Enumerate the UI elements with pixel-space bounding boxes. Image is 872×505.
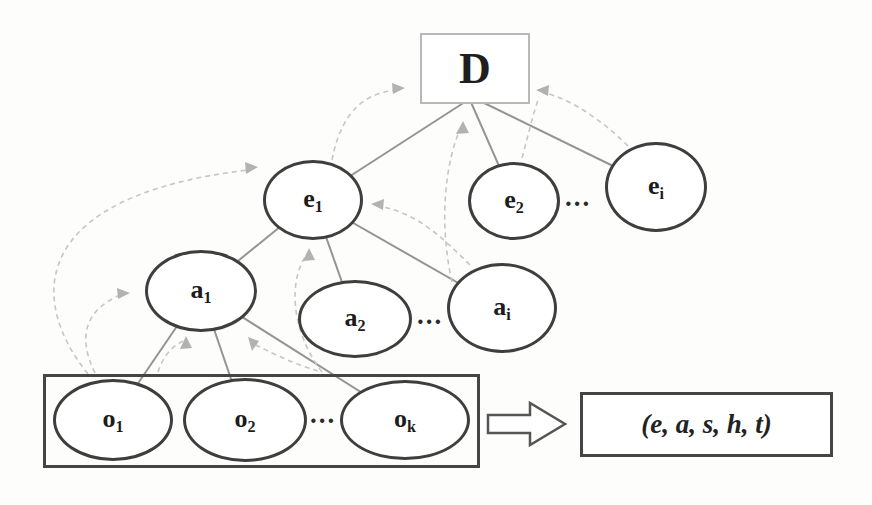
dashed-e1-d xyxy=(332,90,398,160)
e-layer-ellipsis: ... xyxy=(565,184,591,211)
block-arrow-right-icon xyxy=(488,403,565,445)
dashed-o-a1-right xyxy=(254,344,318,371)
node-ei-label: ei xyxy=(648,173,664,202)
node-ai-label: ai xyxy=(493,294,510,323)
arrowhead-into-a1-left-icon xyxy=(117,288,130,299)
arrowhead-into-d-right-icon xyxy=(536,85,549,96)
a-layer-ellipsis: ... xyxy=(417,302,443,329)
arrowhead-into-e1-bottom-icon xyxy=(303,248,315,261)
node-d: D xyxy=(420,33,530,104)
node-e2: e2 xyxy=(468,162,560,240)
dashed-ai-e1 xyxy=(378,206,470,265)
o-layer-ellipsis: ... xyxy=(310,401,336,428)
node-o1-label: o1 xyxy=(102,406,123,435)
node-a1: a1 xyxy=(145,250,257,332)
node-e1-label: e1 xyxy=(303,186,323,215)
dashed-a-d xyxy=(445,127,461,282)
node-ok: ok xyxy=(340,380,470,460)
output-tuple-box: (e, a, s, h, t) xyxy=(580,392,833,457)
arrowhead-into-d-bottom-icon xyxy=(456,121,469,134)
node-e2-label: e2 xyxy=(504,187,524,216)
arrowhead-into-a1-bottom2-icon xyxy=(248,337,259,351)
node-a1-label: a1 xyxy=(190,277,211,306)
node-ai: ai xyxy=(447,263,557,353)
node-o2-label: o2 xyxy=(234,406,255,435)
arrowhead-into-e1-left-icon xyxy=(245,162,258,174)
dashed-o-a1-left xyxy=(158,341,183,372)
node-a2-label: a2 xyxy=(344,305,365,334)
node-e1: e1 xyxy=(263,160,363,240)
node-a2: a2 xyxy=(298,280,412,358)
arrowhead-into-d-left-icon xyxy=(392,83,405,94)
node-d-label: D xyxy=(459,47,491,91)
output-tuple-label: (e, a, s, h, t) xyxy=(641,409,772,440)
hierarchy-diagram: D e1 e2 ... ei a1 a2 ... ai o1 o2 ... ok… xyxy=(0,0,872,505)
arrowhead-into-e1-right-icon xyxy=(371,199,384,210)
dashed-o1-a1 xyxy=(86,295,120,373)
node-ok-label: ok xyxy=(394,406,416,435)
node-o2: o2 xyxy=(183,378,307,462)
node-ei: ei xyxy=(605,142,707,232)
node-o1: o1 xyxy=(53,379,173,461)
